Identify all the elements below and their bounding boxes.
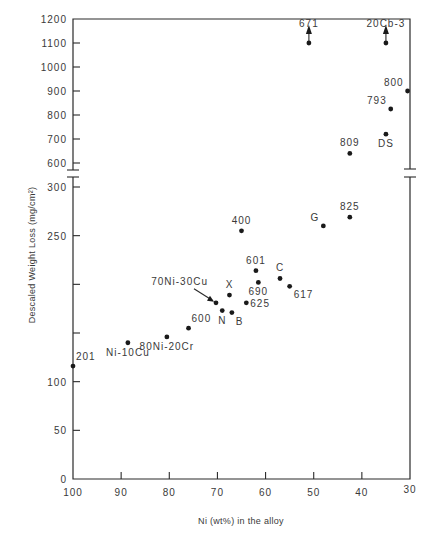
point-label: 70Ni-30Cu xyxy=(151,276,208,287)
point-marker xyxy=(321,224,326,229)
point-label: C xyxy=(276,262,284,273)
data-point-b: B xyxy=(229,310,243,326)
point-label: 690 xyxy=(249,286,269,297)
point-label: 825 xyxy=(340,201,360,212)
point-label: 20Cb-3 xyxy=(367,18,406,29)
point-marker xyxy=(287,284,292,289)
data-point-809: 809 xyxy=(340,137,360,155)
point-marker xyxy=(384,132,389,137)
scatter-chart: 0501002503006007008009001000110012001009… xyxy=(0,0,433,533)
data-point-ds: DS xyxy=(378,132,394,149)
y-tick-label: 1000 xyxy=(41,62,67,73)
point-marker xyxy=(347,151,352,156)
x-tick-label: 80 xyxy=(163,487,176,498)
x-tick-label: 70 xyxy=(211,487,224,498)
pointer-arrow-head xyxy=(207,296,214,302)
point-marker xyxy=(405,89,410,94)
point-marker xyxy=(227,293,232,298)
data-point-800: 800 xyxy=(384,77,410,93)
data-point-625: 625 xyxy=(244,298,270,309)
point-marker xyxy=(186,326,191,331)
point-marker xyxy=(256,280,261,285)
y-tick-label: 300 xyxy=(47,182,67,193)
point-marker xyxy=(220,308,225,313)
point-marker xyxy=(388,107,393,112)
data-point-671: 671 xyxy=(299,18,319,45)
point-marker xyxy=(307,41,312,46)
point-label: 671 xyxy=(299,18,319,29)
data-point-c: C xyxy=(276,262,284,280)
point-label: 793 xyxy=(367,95,387,106)
data-point-70ni-30cu: 70Ni-30Cu xyxy=(151,276,218,305)
point-marker xyxy=(164,334,169,339)
x-tick-label: 100 xyxy=(63,487,83,498)
point-label: 809 xyxy=(340,137,360,148)
y-tick-label: 1100 xyxy=(41,38,67,49)
data-point-601: 601 xyxy=(246,255,266,273)
point-label: 617 xyxy=(294,289,314,300)
data-point-g: G xyxy=(311,212,326,228)
axis-ticks: 0501002503006007008009001000110012001009… xyxy=(41,14,417,498)
y-tick-label: 250 xyxy=(47,231,67,242)
y-tick-label: 800 xyxy=(47,110,67,121)
axes xyxy=(67,19,416,479)
point-label: 800 xyxy=(384,77,404,88)
point-label: 201 xyxy=(76,351,96,362)
point-marker xyxy=(71,364,76,369)
y-tick-label: 1200 xyxy=(41,14,67,25)
y-tick-label: 600 xyxy=(47,158,67,169)
point-label: G xyxy=(311,212,320,223)
point-marker xyxy=(229,310,234,315)
y-tick-label: 900 xyxy=(47,86,67,97)
x-axis-title: Ni (wt%) in the alloy xyxy=(198,516,284,526)
point-label: 600 xyxy=(192,313,212,324)
x-tick-label: 60 xyxy=(259,487,272,498)
point-label: N xyxy=(218,315,226,326)
y-axis-title: Descaled Weight Loss (mg/cm²) xyxy=(27,187,37,324)
y-tick-label: 0 xyxy=(60,474,67,485)
data-point-n: N xyxy=(218,308,226,325)
y-tick-label: 50 xyxy=(54,425,67,436)
point-marker xyxy=(244,300,249,305)
point-marker xyxy=(239,228,244,233)
point-label: 625 xyxy=(250,298,270,309)
data-point-400: 400 xyxy=(232,215,252,233)
point-label: 400 xyxy=(232,215,252,226)
x-tick-label: 90 xyxy=(115,487,128,498)
x-tick-label: 30 xyxy=(403,484,416,495)
point-label: X xyxy=(226,279,234,290)
point-label: B xyxy=(236,316,244,327)
y-tick-label: 700 xyxy=(47,134,67,145)
point-marker xyxy=(384,41,389,46)
data-point-825: 825 xyxy=(340,201,360,219)
data-point-617: 617 xyxy=(287,284,313,300)
point-marker xyxy=(214,300,219,305)
point-label: 601 xyxy=(246,255,266,266)
data-point-690: 690 xyxy=(249,280,269,297)
x-tick-label: 40 xyxy=(355,487,368,498)
data-point-80ni-20cr: 80Ni-20Cr xyxy=(140,334,195,351)
point-marker xyxy=(347,215,352,220)
point-marker xyxy=(254,268,259,273)
data-point-20cb-3: 20Cb-3 xyxy=(367,18,406,45)
point-label: 80Ni-20Cr xyxy=(140,341,195,352)
data-points: 201Ni-10Cu80Ni-20Cr60070Ni-30CuNBX625690… xyxy=(71,18,410,368)
point-label: DS xyxy=(378,138,394,149)
point-marker xyxy=(278,276,283,281)
data-point-201: 201 xyxy=(71,351,96,368)
x-tick-label: 50 xyxy=(307,487,320,498)
data-point-793: 793 xyxy=(367,95,393,111)
y-tick-label: 100 xyxy=(47,377,67,388)
data-point-x: X xyxy=(226,279,234,297)
data-point-600: 600 xyxy=(186,313,211,330)
point-marker xyxy=(125,340,130,345)
